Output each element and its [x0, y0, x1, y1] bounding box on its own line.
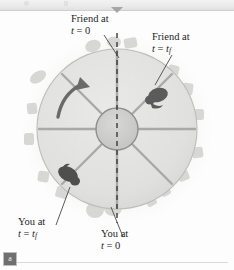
var-t: t: [101, 240, 104, 251]
figure-panel: Friend at t = 0 Friend at t = tf You at …: [0, 0, 234, 270]
label-friend-t0: Friend at t = 0: [71, 13, 109, 36]
eq-sign: =: [158, 43, 164, 54]
label-friend-tf: Friend at t = tf: [152, 31, 190, 56]
var-t: t: [152, 43, 155, 54]
label-you-t0-line2: t = 0: [101, 240, 128, 252]
label-you-t0: You at t = 0: [101, 228, 128, 251]
eq-sign: =: [24, 228, 30, 239]
label-you-t0-line1: You at: [101, 228, 128, 239]
panel-label-badge: a: [4, 253, 16, 265]
label-you-tf-line2: t = tf: [18, 228, 45, 242]
top-strip-speck-left: [24, 1, 29, 6]
var-t: t: [18, 228, 21, 239]
value-subscript-f: f: [35, 231, 37, 240]
label-friend-t0-line2: t = 0: [71, 25, 109, 37]
label-friend-tf-line2: t = tf: [152, 43, 190, 57]
label-you-tf-line1: You at: [18, 216, 45, 227]
label-friend-tf-line1: Friend at: [152, 31, 190, 42]
eq-zero: = 0: [77, 25, 91, 36]
label-friend-t0-line1: Friend at: [71, 13, 109, 24]
label-you-tf: You at t = tf: [18, 216, 45, 241]
value-subscript-f: f: [169, 46, 171, 55]
eq-zero: = 0: [107, 240, 121, 251]
bottom-divider: [14, 262, 228, 263]
var-t: t: [71, 25, 74, 36]
top-strip-speck-right: [64, 1, 68, 6]
